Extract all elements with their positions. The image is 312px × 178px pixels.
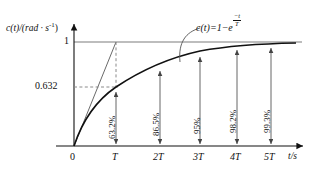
annotation-label-95-percent: 95% — [193, 118, 202, 135]
annotation-label-86-5-percent: 86.5% — [152, 113, 161, 136]
y-axis-label-text: c(t)/(rad · s — [6, 23, 49, 33]
x-axis-label: t/s — [288, 152, 297, 162]
equation-annotation: c(t)=1−e−tT — [196, 14, 241, 33]
x-tick-label-T: T — [112, 152, 118, 162]
x-tick-label-0: 0 — [70, 152, 75, 162]
x-tick-label-3T: 3T — [193, 152, 204, 162]
annotation-label-63-2-percent: 63.2% — [108, 116, 117, 139]
equation-exponent-fraction: −tT — [233, 13, 241, 28]
y-tick-label-0632: 0.632 — [35, 81, 58, 91]
annotation-label-99-3-percent: 99.3% — [263, 110, 272, 133]
annotation-label-98-2-percent: 98.2% — [229, 110, 238, 133]
y-tick-label-1: 1 — [64, 36, 69, 46]
y-axis-label: c(t)/(rad · s-1) — [6, 22, 58, 34]
equation-lhs: c(t)=1−e — [196, 22, 233, 33]
x-tick-label-5T: 5T — [264, 152, 275, 162]
equation-exponent-denominator: T — [233, 21, 241, 28]
x-tick-label-2T: 2T — [153, 152, 164, 162]
y-axis-label-suffix: ) — [55, 23, 58, 33]
step-response-figure: c(t)/(rad · s-1) 1 0.632 0 T 2T 3T 4T 5T… — [0, 0, 312, 178]
x-tick-label-4T: 4T — [230, 152, 241, 162]
